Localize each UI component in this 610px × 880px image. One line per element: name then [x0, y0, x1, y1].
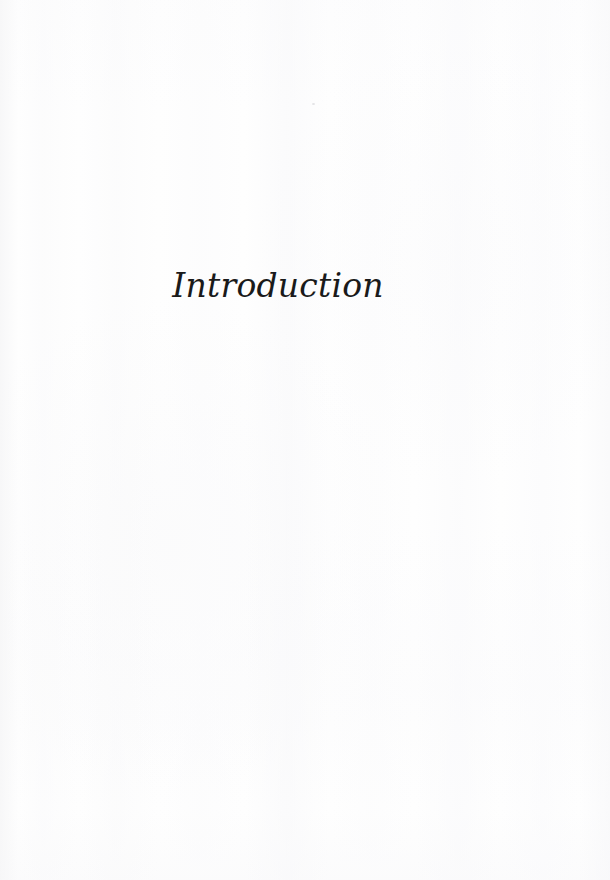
- scan-speck-artifact: [312, 103, 315, 105]
- document-page: Introduction: [0, 0, 610, 880]
- chapter-title-block: Introduction: [0, 268, 610, 304]
- page-title: Introduction: [172, 268, 383, 304]
